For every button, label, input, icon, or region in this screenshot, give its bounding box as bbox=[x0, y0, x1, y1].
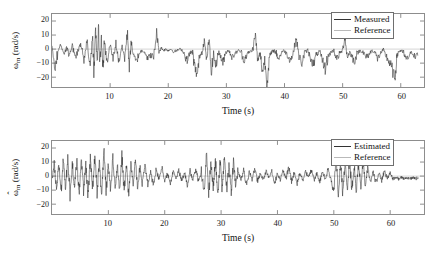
x-tick-label: 50 bbox=[339, 92, 348, 101]
x-axis-ticks-top: 102030405060 bbox=[0, 92, 441, 104]
y-tick-label: −10 bbox=[36, 59, 49, 67]
x-tick-label: 30 bbox=[217, 219, 226, 228]
y-tick-label: −20 bbox=[36, 201, 49, 209]
chart-panel-bottom: 20100−10−20 102030405060 Time (s) ˆωm (r… bbox=[0, 131, 441, 263]
legend-label-measured: Measured bbox=[354, 15, 390, 24]
x-tick-label: 10 bbox=[105, 92, 114, 101]
x-tick-label: 10 bbox=[103, 219, 112, 228]
x-tick-label: 20 bbox=[160, 219, 169, 228]
y-axis-units-bottom: (rad/s) bbox=[10, 159, 20, 183]
y-axis-units-top: (rad/s) bbox=[10, 32, 20, 56]
legend-label-reference-bottom: Reference bbox=[354, 153, 390, 162]
y-tick-label: 10 bbox=[41, 31, 49, 39]
x-axis-label-top: Time (s) bbox=[51, 106, 425, 116]
y-axis-ticks-bottom: 20100−10−20 bbox=[27, 140, 49, 215]
legend-swatch-estimated bbox=[334, 146, 351, 147]
x-axis-ticks-bottom: 102030405060 bbox=[0, 219, 441, 231]
legend-label-estimated: Estimated bbox=[354, 142, 390, 151]
y-tick-label: 20 bbox=[41, 16, 49, 24]
x-tick-label: 20 bbox=[164, 92, 173, 101]
legend-top: Measured Reference bbox=[331, 12, 394, 39]
y-axis-symbol-top: ω bbox=[10, 63, 20, 69]
x-tick-label: 60 bbox=[387, 219, 396, 228]
y-tick-label: −20 bbox=[36, 74, 49, 82]
y-axis-ticks-top: 20100−10−20 bbox=[27, 13, 49, 88]
y-axis-label-bottom: ˆωm (rad/s) bbox=[10, 144, 23, 210]
x-tick-label: 40 bbox=[281, 92, 290, 101]
y-axis-symbol-hat-wrap: ˆω bbox=[10, 190, 20, 196]
y-axis-subscript-top: m bbox=[14, 58, 22, 63]
y-axis-hat-accent: ˆ bbox=[7, 192, 16, 195]
legend-swatch-measured bbox=[334, 19, 351, 20]
legend-entry-estimated: Estimated bbox=[334, 141, 390, 152]
chart-panel-top: 20100−10−20 102030405060 Time (s) ωm (ra… bbox=[0, 0, 441, 131]
x-tick-label: 40 bbox=[273, 219, 282, 228]
legend-entry-measured: Measured bbox=[334, 14, 390, 25]
y-tick-label: −10 bbox=[36, 186, 49, 194]
legend-label-reference-top: Reference bbox=[354, 26, 390, 35]
legend-swatch-reference-top bbox=[334, 30, 351, 31]
y-tick-label: 0 bbox=[45, 172, 49, 180]
x-tick-label: 30 bbox=[222, 92, 231, 101]
x-tick-label: 50 bbox=[330, 219, 339, 228]
x-axis-label-bottom: Time (s) bbox=[51, 233, 425, 243]
y-tick-label: 10 bbox=[41, 158, 49, 166]
figure-container: 20100−10−20 102030405060 Time (s) ωm (ra… bbox=[0, 0, 441, 263]
y-tick-label: 0 bbox=[45, 45, 49, 53]
legend-entry-reference-bottom: Reference bbox=[334, 152, 390, 163]
legend-entry-reference-top: Reference bbox=[334, 25, 390, 36]
y-axis-label-top: ωm (rad/s) bbox=[10, 17, 23, 83]
y-tick-label: 20 bbox=[41, 143, 49, 151]
legend-bottom: Estimated Reference bbox=[331, 139, 394, 166]
legend-swatch-reference-bottom bbox=[334, 157, 351, 158]
x-tick-label: 60 bbox=[397, 92, 406, 101]
